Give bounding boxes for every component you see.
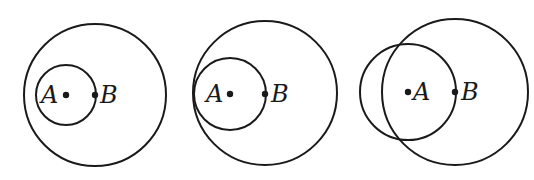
figure-1: A B: [24, 24, 166, 166]
point-b-dot: [92, 92, 98, 98]
point-b-label: B: [99, 81, 118, 109]
point-b-label: B: [460, 78, 479, 106]
point-a-label: A: [204, 80, 223, 108]
point-b-label: B: [270, 80, 289, 108]
point-a-label: A: [39, 81, 58, 109]
point-b-dot: [262, 91, 268, 97]
figure-3: A B: [360, 19, 528, 165]
circles-diagram: A B A B A B: [0, 0, 534, 180]
figure-2: A B: [193, 21, 337, 165]
point-b-dot: [452, 89, 458, 95]
point-a-dot: [63, 92, 69, 98]
point-a-dot: [227, 91, 233, 97]
point-a-dot: [405, 89, 411, 95]
point-a-label: A: [411, 78, 430, 106]
